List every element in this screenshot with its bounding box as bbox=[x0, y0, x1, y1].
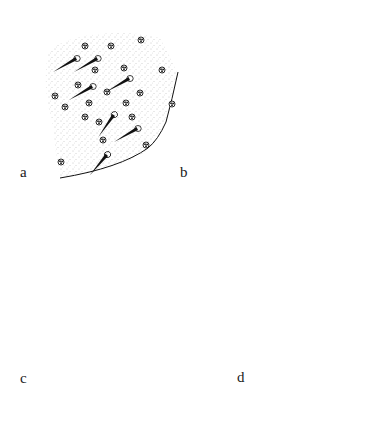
panel-label-a: a bbox=[20, 164, 27, 181]
panel-label-c: c bbox=[20, 370, 27, 387]
panel-a bbox=[46, 33, 178, 178]
panel-label-d: d bbox=[237, 369, 245, 386]
illustration bbox=[0, 0, 377, 436]
panel-label-b: b bbox=[180, 164, 188, 181]
